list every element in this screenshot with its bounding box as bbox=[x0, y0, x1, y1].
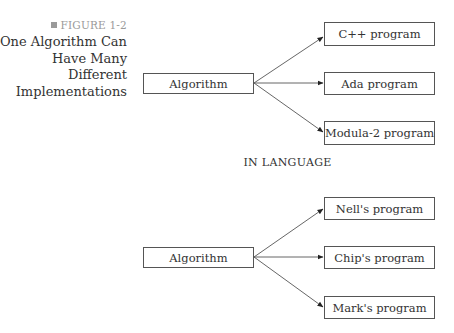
nells-program-box: Nell's program bbox=[324, 197, 435, 220]
arrow-to-nell bbox=[254, 209, 323, 257]
modula2-program-box: Modula-2 program bbox=[324, 121, 435, 145]
arrow-to-cpp bbox=[254, 37, 323, 83]
arrow-to-modula2 bbox=[254, 83, 323, 132]
connector-arrows bbox=[0, 0, 454, 333]
section-label: IN LANGUAGE bbox=[240, 156, 335, 169]
algorithm-box-bottom: Algorithm bbox=[143, 247, 254, 268]
ada-program-box: Ada program bbox=[324, 72, 435, 95]
chips-program-box: Chip's program bbox=[324, 246, 435, 269]
arrow-to-mark bbox=[254, 257, 323, 307]
marks-program-box: Mark's program bbox=[324, 296, 435, 319]
cpp-program-box: C++ program bbox=[324, 22, 435, 46]
algorithm-box-top: Algorithm bbox=[143, 73, 254, 94]
